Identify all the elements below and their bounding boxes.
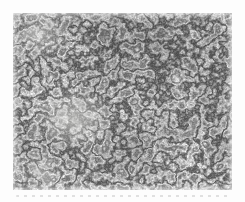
scan-artifact-line — [16, 195, 229, 197]
micrograph-photo — [13, 13, 232, 190]
photo-edge-fade — [13, 13, 232, 190]
page-background — [0, 0, 245, 202]
